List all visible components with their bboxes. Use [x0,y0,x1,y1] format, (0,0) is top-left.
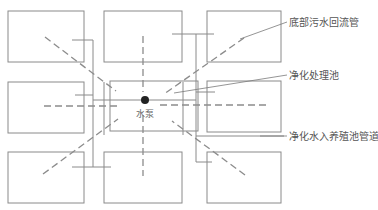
tank-bottom-right [207,152,281,203]
leader-sewage-return [240,22,287,39]
label-clean-water-inlet-pipe: 净化水入养殖池管道 [289,130,378,142]
aquaculture-diagram: 底部污水回流管 净化处理池 净化水入养殖池管道 水泵 [0,0,378,210]
tank-top-left [8,11,84,62]
sewage-line-top-right [164,38,244,94]
sewage-line-bottom-left [43,119,118,174]
leader-purification-pond [174,75,287,93]
sewage-line-bottom-right [172,121,245,175]
tank-middle-left [8,82,84,133]
label-pump: 水泵 [136,108,154,119]
label-bottom-sewage-return-pipe: 底部污水回流管 [289,16,359,28]
label-purification-pond: 净化处理池 [289,69,339,81]
tank-top-right [207,11,281,62]
tank-middle-right [207,81,281,132]
tank-center-purification [110,81,198,131]
sewage-line-top-left [45,37,116,91]
tank-bottom-left [8,152,84,203]
pump-icon [141,96,149,104]
